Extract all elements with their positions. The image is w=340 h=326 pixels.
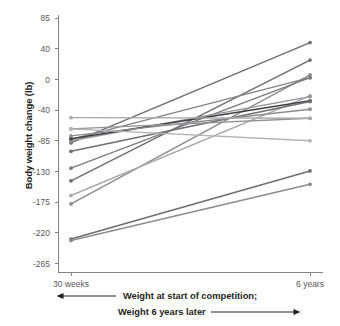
data-point-right [308, 182, 312, 186]
y-tick-label: -265 [33, 259, 50, 269]
y-tick-label: -175 [33, 197, 50, 207]
y-tick-label: -220 [33, 228, 50, 238]
y-tick-label: 40 [41, 44, 51, 54]
data-point-left [69, 116, 73, 120]
caption-line-1-row: Weight at start of competition; [0, 288, 340, 304]
slope-series [69, 169, 312, 241]
series-layer [69, 41, 312, 243]
caption-line-2-row: Weight 6 years later [0, 304, 340, 320]
data-point-right [308, 107, 312, 111]
slope-chart-plot: 85 40 0 -40 -85 -130 -175 -220 -265 30 w… [0, 0, 340, 290]
data-point-right [308, 95, 312, 99]
data-point-left [69, 127, 73, 131]
y-tick-label: -85 [38, 136, 51, 146]
data-point-left [69, 166, 73, 170]
slope-line [71, 118, 310, 119]
data-point-right [308, 58, 312, 62]
data-point-right [308, 76, 312, 80]
caption-line-1-text: Weight at start of competition; [123, 291, 257, 301]
chart-caption: Weight at start of competition; Weight 6… [0, 288, 340, 326]
y-tick-label: 0 [45, 75, 50, 85]
slope-line [71, 184, 310, 240]
y-tick-marks [55, 18, 59, 264]
slope-series [69, 94, 312, 197]
data-point-right [308, 139, 312, 143]
right-arrow-icon [211, 306, 301, 318]
y-tick-label: 85 [41, 13, 51, 23]
data-point-left [69, 202, 73, 206]
chart-figure: Body weight change (lb) 85 40 0 -40 -85 … [0, 0, 340, 326]
data-point-right [308, 169, 312, 173]
y-tick-label: -40 [38, 105, 51, 115]
data-point-left [69, 134, 73, 138]
slope-series [69, 182, 312, 242]
data-point-left [69, 194, 73, 198]
slope-line [71, 109, 310, 136]
data-point-left [69, 239, 73, 243]
y-tick-labels: 85 40 0 -40 -85 -130 -175 -220 -265 [33, 13, 50, 269]
data-point-right [308, 116, 312, 120]
left-arrow-icon [56, 290, 118, 302]
data-point-left [69, 149, 73, 153]
x-tick-marks [71, 273, 310, 277]
data-point-right [308, 41, 312, 45]
data-point-left [69, 179, 73, 183]
caption-line-2-text: Weight 6 years later [118, 307, 206, 317]
data-point-right [308, 100, 312, 104]
y-tick-label: -130 [33, 167, 50, 177]
